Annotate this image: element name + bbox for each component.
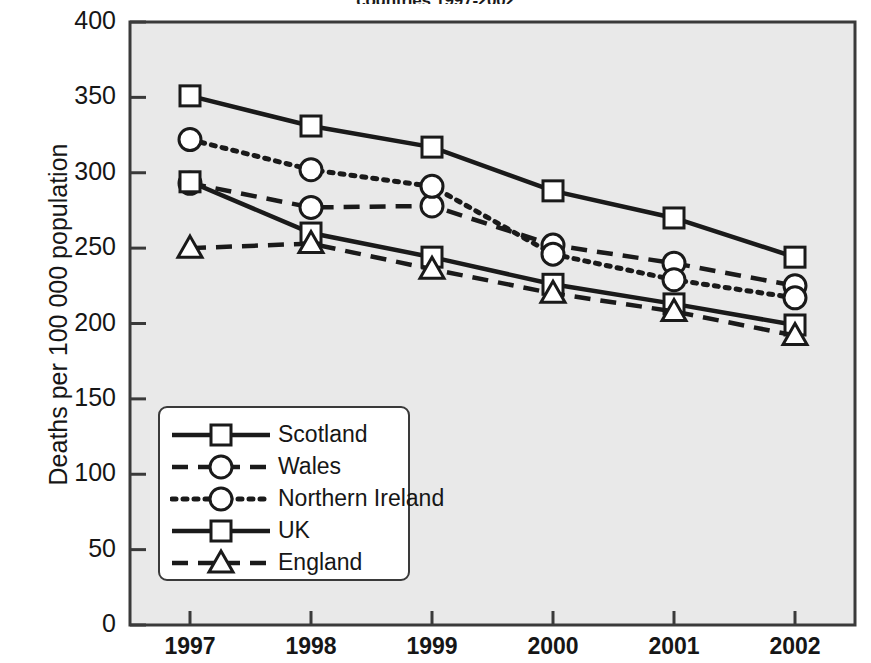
data-point-marker-circle <box>300 159 322 181</box>
legend-label: Wales <box>278 453 341 480</box>
data-point-marker-circle <box>663 269 685 291</box>
plot-area <box>0 0 871 663</box>
data-point-marker-square <box>180 86 200 106</box>
data-point-marker-square <box>180 172 200 192</box>
legend-swatch <box>170 450 272 485</box>
legend-label: England <box>278 549 362 576</box>
data-point-marker-circle <box>210 456 232 478</box>
data-point-marker-circle <box>300 196 322 218</box>
legend-swatch <box>170 546 272 581</box>
legend-item-wales[interactable]: Wales <box>160 450 412 485</box>
legend-swatch <box>170 418 272 453</box>
data-point-marker-square <box>211 425 231 445</box>
data-point-marker-square <box>785 247 805 267</box>
legend-label: UK <box>278 517 310 544</box>
data-point-marker-square <box>301 116 321 136</box>
data-point-marker-square <box>422 137 442 157</box>
data-point-marker-circle <box>784 287 806 309</box>
legend-item-uk[interactable]: UK <box>160 514 412 549</box>
data-point-marker-circle <box>179 129 201 151</box>
data-point-marker-square <box>211 521 231 541</box>
data-point-marker-circle <box>210 488 232 510</box>
legend-swatch <box>170 514 272 549</box>
legend-label: Northern Ireland <box>278 485 444 512</box>
data-point-marker-circle <box>542 243 564 265</box>
legend-swatch <box>170 482 272 517</box>
data-point-marker-square <box>543 181 563 201</box>
legend-item-scotland[interactable]: Scotland <box>160 418 412 453</box>
legend-item-northern-ireland[interactable]: Northern Ireland <box>160 482 412 517</box>
chart-legend: ScotlandWalesNorthern IrelandUKEngland <box>158 406 410 581</box>
legend-label: Scotland <box>278 421 368 448</box>
data-point-marker-square <box>664 208 684 228</box>
chart-figure: countries 1997-2002 Deaths per 100 000 p… <box>0 0 871 663</box>
legend-item-england[interactable]: England <box>160 546 412 581</box>
data-point-marker-circle <box>421 175 443 197</box>
